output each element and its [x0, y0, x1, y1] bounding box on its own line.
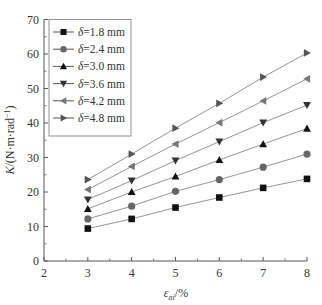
triangle-up-marker	[215, 156, 223, 163]
series-3	[84, 125, 311, 212]
circle-marker	[84, 215, 91, 222]
circle-marker	[128, 203, 135, 210]
triangle-left-marker	[172, 140, 179, 148]
triangle-right-marker	[172, 124, 179, 132]
triangle-up-marker	[128, 188, 136, 195]
triangle-left-marker	[259, 97, 266, 105]
y-axis-label: K/(N·m·rad−1)	[3, 105, 17, 175]
chart-canvas: 0102030405060702345678 δ=1.8 mmδ=2.4 mmδ…	[0, 0, 322, 305]
triangle-down-marker	[128, 177, 136, 184]
y-tick-label: 10	[27, 220, 39, 234]
square-marker	[128, 216, 135, 223]
x-tick-label: 3	[85, 266, 91, 280]
triangle-right-marker	[85, 176, 92, 184]
legend-label: δ=1.8 mm	[78, 26, 125, 38]
triangle-up-marker	[172, 173, 180, 180]
y-tick-label: 70	[27, 13, 39, 27]
circle-marker	[60, 46, 67, 53]
y-tick-label: 30	[27, 151, 39, 165]
triangle-left-marker	[215, 119, 222, 127]
triangle-down-marker	[84, 196, 92, 203]
square-marker	[61, 29, 67, 35]
legend-label: δ=3.6 mm	[78, 78, 125, 90]
circle-marker	[260, 164, 267, 171]
x-tick-label: 8	[304, 266, 310, 280]
square-marker	[85, 225, 92, 232]
x-tick-label: 5	[173, 266, 179, 280]
square-marker	[304, 176, 311, 183]
line-chart: 0102030405060702345678 δ=1.8 mmδ=2.4 mmδ…	[0, 0, 322, 305]
y-tick-label: 20	[27, 185, 39, 199]
circle-marker	[216, 176, 223, 183]
y-tick-label: 40	[27, 116, 39, 130]
x-tick-label: 2	[41, 266, 47, 280]
triangle-right-marker	[216, 99, 223, 107]
legend-label: δ=4.8 mm	[78, 112, 125, 124]
triangle-left-marker	[128, 163, 135, 171]
series-1	[85, 176, 311, 232]
triangle-right-marker	[260, 73, 267, 81]
triangle-down-marker	[172, 157, 180, 164]
triangle-up-marker	[259, 140, 267, 147]
legend-label: δ=3.0 mm	[78, 60, 125, 72]
y-tick-label: 0	[33, 254, 39, 268]
legend-label: δ=4.2 mm	[78, 95, 125, 107]
series-line	[88, 129, 307, 209]
triangle-left-marker	[303, 75, 310, 83]
triangle-right-marker	[304, 49, 311, 57]
circle-marker	[303, 150, 310, 157]
triangle-right-marker	[129, 150, 136, 158]
triangle-up-marker	[84, 205, 92, 212]
series-line	[88, 154, 307, 219]
x-tick-label: 4	[129, 266, 135, 280]
y-tick-label: 50	[27, 82, 39, 96]
circle-marker	[172, 188, 179, 195]
y-tick-label: 60	[27, 47, 39, 61]
legend: δ=1.8 mmδ=2.4 mmδ=3.0 mmδ=3.6 mmδ=4.2 mm…	[49, 20, 131, 137]
x-tick-label: 7	[260, 266, 266, 280]
x-tick-label: 6	[216, 266, 222, 280]
triangle-left-marker	[84, 186, 91, 194]
triangle-up-marker	[303, 125, 311, 132]
triangle-down-marker	[303, 102, 311, 109]
x-axis-label: εai/%	[164, 286, 188, 302]
square-marker	[216, 194, 223, 201]
series-line	[88, 179, 307, 229]
triangle-down-marker	[259, 120, 267, 127]
legend-label: δ=2.4 mm	[78, 43, 125, 55]
square-marker	[260, 185, 267, 192]
square-marker	[172, 204, 179, 211]
triangle-down-marker	[215, 139, 223, 146]
